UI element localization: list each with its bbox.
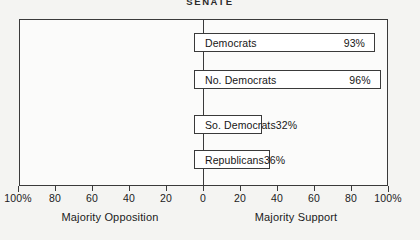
axis-tick [314, 186, 315, 191]
axis-tick [351, 186, 352, 191]
bar-label: Republicans [205, 154, 264, 166]
axis-tick-label: 100% [4, 192, 32, 204]
axis-tick-label: 60 [308, 192, 320, 204]
axis-tick [277, 186, 278, 191]
bar-republicans: Republicans36% [194, 150, 270, 169]
bar-value: 96% [349, 74, 370, 86]
axis-tick [55, 186, 56, 191]
axis-captions: Majority Opposition Majority Support [0, 211, 420, 227]
bar-label: No. Democrats [205, 74, 276, 86]
axis-tick-label: 60 [86, 192, 98, 204]
axis-caption-left: Majority Opposition [62, 211, 159, 223]
axis-tick-label: 20 [160, 192, 172, 204]
axis-tick [129, 186, 130, 191]
axis-tick-label: 40 [271, 192, 283, 204]
bar-value: 36% [264, 154, 285, 166]
chart-title: SENATE [0, 0, 420, 7]
axis-tick-label: 40 [123, 192, 135, 204]
axis-tick-label: 80 [345, 192, 357, 204]
axis-tick-label: 20 [234, 192, 246, 204]
axis-tick [92, 186, 93, 191]
bar-value: 93% [344, 37, 365, 49]
bar-label: Democrats [205, 37, 257, 49]
axis-tick-labels: 100%80604020020406080100% [0, 192, 420, 206]
axis-tick-label: 0 [200, 192, 206, 204]
bar-no-democrats: No. Democrats96% [194, 70, 381, 89]
chart-container: SENATE Democrats93%No. Democrats96%So. D… [0, 0, 420, 240]
axis-tick [166, 186, 167, 191]
bar-democrats: Democrats93% [194, 33, 375, 52]
axis-tick [240, 186, 241, 191]
bar-label: So. Democrats [205, 119, 276, 131]
axis-tick-label: 100% [374, 192, 402, 204]
axis-tick-label: 80 [49, 192, 61, 204]
bar-value: 32% [276, 119, 297, 131]
axis-tick [203, 186, 204, 191]
bar-so-democrats: So. Democrats32% [194, 115, 262, 134]
axis-caption-right: Majority Support [255, 211, 338, 223]
